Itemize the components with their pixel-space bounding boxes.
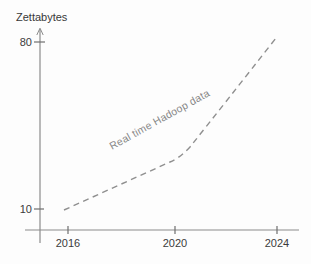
hadoop-data-dashed-line	[64, 38, 276, 210]
chart-canvas: Zettabytes 80 10 2016 2020 2024 Real tim…	[0, 0, 311, 264]
x-tick-label-2020: 2020	[163, 237, 187, 249]
y-axis-title: Zettabytes	[16, 11, 68, 23]
series-label-real-time-hadoop-data: Real time Hadoop data	[107, 87, 211, 152]
zettabytes-growth-chart: Zettabytes 80 10 2016 2020 2024 Real tim…	[0, 0, 311, 264]
y-tick-label-80: 80	[20, 36, 32, 48]
x-tick-label-2024: 2024	[265, 237, 289, 249]
y-tick-label-10: 10	[20, 203, 32, 215]
x-tick-label-2016: 2016	[56, 237, 80, 249]
